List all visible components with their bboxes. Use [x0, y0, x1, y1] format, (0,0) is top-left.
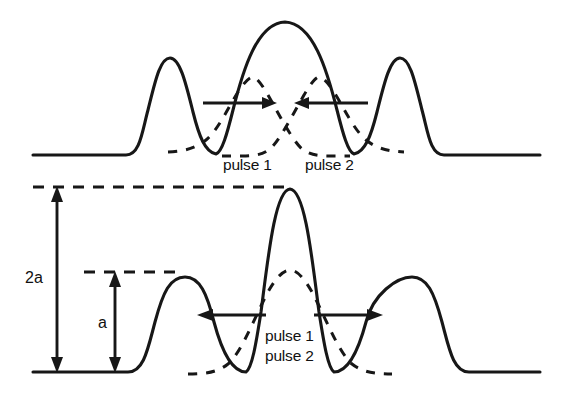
- bottom-arrow-left-head: [197, 309, 213, 321]
- dimension-2a: 2a: [25, 186, 63, 373]
- top-pulse-1-label: pulse 1: [223, 156, 272, 173]
- top-solid-resultant-curve: [33, 22, 540, 155]
- bottom-pulse-2-label: pulse 2: [265, 347, 314, 364]
- bottom-solid-resultant-curve: [33, 189, 540, 372]
- pulse-superposition-diagram: pulse 1 pulse 2 pulse 1 p: [0, 0, 571, 395]
- top-arrow-right: [203, 97, 277, 109]
- dimension-a: a: [98, 271, 121, 373]
- top-arrow-left: [294, 97, 368, 109]
- figure-root: pulse 1 pulse 2 pulse 1 p: [0, 0, 571, 395]
- bottom-arrow-right-head: [367, 309, 383, 321]
- top-panel: pulse 1 pulse 2: [33, 22, 540, 173]
- bottom-panel: pulse 1 pulse 2 2a a: [25, 186, 540, 374]
- top-pulse-2-label: pulse 2: [305, 156, 354, 173]
- dimension-2a-label: 2a: [25, 269, 43, 286]
- bottom-pulse-1-label: pulse 1: [265, 327, 314, 344]
- dimension-a-label: a: [98, 314, 107, 331]
